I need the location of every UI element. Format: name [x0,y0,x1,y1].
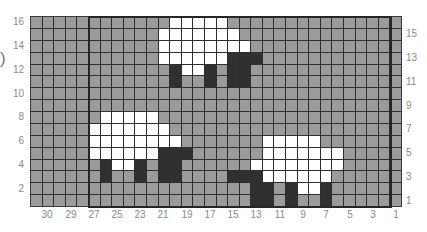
gray-cell [205,88,216,99]
column-label: 15 [227,210,238,220]
gray-cell [101,41,112,52]
gray-cell [344,17,355,28]
gray-cell [228,124,239,135]
column-label: 5 [347,210,353,220]
white-cell [159,41,170,52]
white-cell [135,136,146,147]
gray-cell [390,112,401,123]
gray-cell [263,88,274,99]
gray-cell [367,76,378,87]
gray-cell [309,88,320,99]
gray-cell [77,17,88,28]
gray-cell [193,124,204,135]
gray-cell [193,148,204,159]
gray-cell [31,53,42,64]
column-label: 21 [157,210,168,220]
column-label: 23 [134,210,145,220]
gray-cell [298,112,309,123]
gray-cell [379,136,390,147]
white-cell [182,29,193,40]
gray-cell [240,88,251,99]
gray-cell [332,17,343,28]
gray-cell [43,183,54,194]
white-cell [240,41,251,52]
gray-cell [286,65,297,76]
gray-cell [135,41,146,52]
gray-cell [66,183,77,194]
gray-cell [31,160,42,171]
column-label: 25 [111,210,122,220]
gray-cell [379,29,390,40]
gray-cell [124,195,135,206]
gray-cell [390,53,401,64]
white-cell [274,136,285,147]
gray-cell [367,124,378,135]
gray-cell [89,41,100,52]
gray-cell [66,29,77,40]
gray-cell [182,160,193,171]
gray-cell [112,195,123,206]
gray-cell [112,41,123,52]
gray-cell [170,88,181,99]
gray-cell [274,88,285,99]
gray-cell [298,53,309,64]
gray-cell [159,88,170,99]
gray-cell [124,65,135,76]
gray-cell [77,148,88,159]
row-label-right: 1 [406,196,412,206]
gray-cell [367,41,378,52]
gray-cell [89,17,100,28]
gray-cell [379,17,390,28]
gray-cell [263,17,274,28]
gray-cell [124,41,135,52]
gray-cell [390,195,401,206]
gray-cell [135,17,146,28]
gray-cell [205,160,216,171]
gray-cell [31,17,42,28]
gray-cell [147,17,158,28]
row-label-left: 10 [13,89,24,99]
column-label: 3 [370,210,376,220]
gray-cell [286,112,297,123]
gray-cell [321,88,332,99]
gray-cell [43,112,54,123]
dark-cell [101,171,112,182]
gray-cell [112,76,123,87]
gray-cell [205,136,216,147]
gray-cell [251,76,262,87]
white-cell [321,160,332,171]
white-cell [309,148,320,159]
gray-cell [228,148,239,159]
dark-cell [240,53,251,64]
gray-cell [66,53,77,64]
gray-cell [31,183,42,194]
gray-cell [159,65,170,76]
white-cell [124,124,135,135]
gray-cell [77,160,88,171]
gray-cell [332,171,343,182]
gray-cell [356,136,367,147]
gray-cell [321,65,332,76]
gray-cell [112,53,123,64]
gray-cell [66,65,77,76]
gray-cell [367,65,378,76]
gray-cell [332,41,343,52]
gray-cell [54,53,65,64]
gray-cell [170,124,181,135]
white-cell [170,29,181,40]
gray-cell [240,160,251,171]
gray-cell [332,65,343,76]
gray-cell [251,100,262,111]
white-cell [124,160,135,171]
gray-cell [367,29,378,40]
gray-cell [309,100,320,111]
gray-cell [298,17,309,28]
gray-cell [309,124,320,135]
gray-cell [77,100,88,111]
gray-cell [379,88,390,99]
gray-cell [147,183,158,194]
gray-cell [274,17,285,28]
gray-cell [298,65,309,76]
gray-cell [89,171,100,182]
gray-cell [356,195,367,206]
